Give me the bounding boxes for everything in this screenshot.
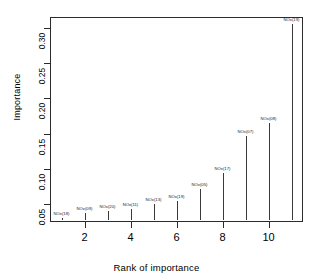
- y-tick-label: 0.25: [37, 62, 47, 90]
- x-tick-mark: [177, 222, 178, 228]
- x-tick-label: 4: [119, 231, 143, 243]
- point-label: NOx(13): [146, 197, 162, 202]
- x-axis-title: Rank of importance: [0, 262, 313, 273]
- point-label: NOx(11): [123, 202, 139, 207]
- x-tick-label: 8: [211, 231, 235, 243]
- point-label: NOx(19): [169, 194, 185, 199]
- stem-line: [177, 201, 178, 220]
- stem-line: [292, 24, 293, 220]
- stem-line: [269, 123, 270, 220]
- stem-line: [85, 213, 86, 220]
- point-label: NOx(17): [215, 166, 231, 171]
- stem-line: [200, 189, 201, 220]
- stem-line: [154, 204, 155, 220]
- point-label: NOx(18): [54, 211, 70, 216]
- x-tick-label: 10: [257, 231, 281, 243]
- point-label: NOx(20): [100, 204, 116, 209]
- y-tick-label: 0.15: [37, 133, 47, 161]
- point-label: NOx(09): [77, 206, 93, 211]
- y-tick-label: 0.30: [37, 27, 47, 55]
- stem-line: [223, 173, 224, 220]
- point-label: NOx(19): [284, 17, 300, 22]
- stem-line: [246, 136, 247, 220]
- x-tick-mark: [223, 222, 224, 228]
- x-tick-mark: [85, 222, 86, 228]
- x-tick-label: 2: [73, 231, 97, 243]
- y-tick-label: 0.05: [37, 203, 47, 231]
- stem-line: [108, 211, 109, 220]
- y-tick-label: 0.10: [37, 168, 47, 196]
- x-tick-label: 6: [165, 231, 189, 243]
- point-label: NOx(07): [238, 129, 254, 134]
- x-tick-mark: [131, 222, 132, 228]
- stem-line: [131, 209, 132, 220]
- y-axis-title: Importance: [12, 52, 22, 142]
- stem-line: [62, 218, 63, 220]
- point-label: NOx(05): [192, 182, 208, 187]
- y-tick-label: 0.20: [37, 97, 47, 125]
- importance-rank-chart: Importance Rank of importance 0.050.100.…: [0, 0, 313, 279]
- point-label: NOx(08): [261, 116, 277, 121]
- x-tick-mark: [269, 222, 270, 228]
